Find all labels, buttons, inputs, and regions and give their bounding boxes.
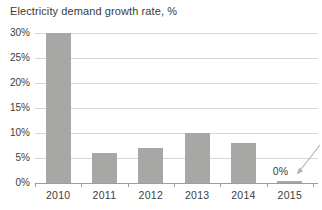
y-tick-label: 20% — [2, 77, 30, 89]
y-tick-label: 15% — [2, 102, 30, 114]
x-axis-tick — [174, 183, 175, 187]
x-tick-label: 2011 — [81, 189, 127, 201]
gridline — [35, 158, 318, 159]
x-axis-line — [35, 183, 318, 184]
x-axis-tick — [81, 183, 82, 187]
electricity-demand-growth-chart: Electricity demand growth rate, % 30%25%… — [0, 0, 322, 210]
bar-2013 — [185, 133, 210, 183]
chart-title: Electricity demand growth rate, % — [10, 5, 177, 17]
y-tick-label: 25% — [2, 52, 30, 64]
x-axis-tick — [267, 183, 268, 187]
gridline — [35, 133, 318, 134]
y-tick-label: 10% — [2, 127, 30, 139]
x-axis-tick — [313, 183, 314, 187]
x-tick-label: 2010 — [35, 189, 81, 201]
gridline — [35, 83, 318, 84]
y-tick-label: 0% — [2, 177, 30, 189]
gridline — [35, 58, 318, 59]
annotation-zero-percent-label: 0% — [258, 165, 288, 177]
bar-2015 — [277, 181, 302, 183]
y-tick-label: 30% — [2, 27, 30, 39]
annotation-arrow-icon — [292, 142, 322, 178]
x-axis-tick — [35, 183, 36, 187]
gridline — [35, 33, 318, 34]
x-tick-label: 2015 — [267, 189, 313, 201]
bar-2010 — [46, 33, 71, 183]
gridline — [35, 108, 318, 109]
bar-2012 — [138, 148, 163, 183]
bar-2014 — [231, 143, 256, 183]
x-tick-label: 2014 — [220, 189, 266, 201]
x-tick-label: 2013 — [174, 189, 220, 201]
x-tick-label: 2012 — [128, 189, 174, 201]
x-axis-tick — [128, 183, 129, 187]
y-tick-label: 5% — [2, 152, 30, 164]
x-axis-tick — [220, 183, 221, 187]
bar-2011 — [92, 153, 117, 183]
